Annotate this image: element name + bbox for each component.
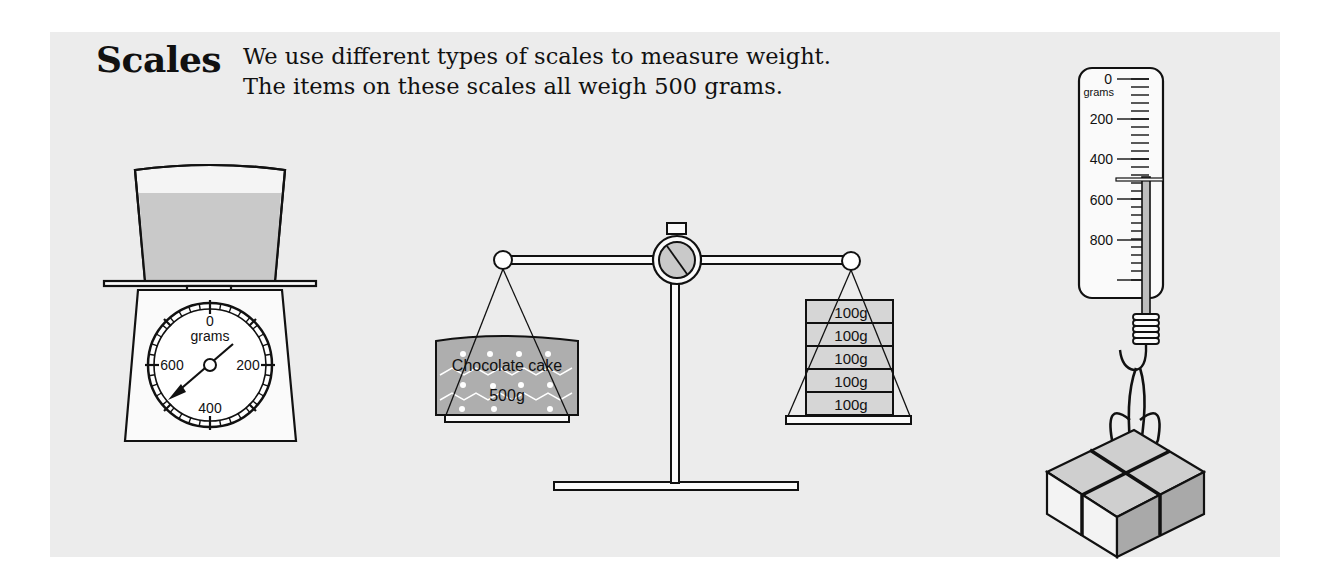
spring-coil (1133, 314, 1159, 344)
spring-unit-label: grams (1083, 86, 1114, 98)
weight-label-1: 100g (834, 304, 867, 321)
spring-label-600: 600 (1090, 192, 1114, 208)
spring-label-800: 800 (1090, 232, 1114, 248)
weight-label-4: 100g (834, 373, 867, 390)
weight-label-2: 100g (834, 327, 867, 344)
dial-label-0: 0 (206, 313, 214, 329)
reading-indicator (1116, 178, 1163, 181)
cake-weight-label: 500g (489, 387, 525, 404)
dial-label-600: 600 (160, 357, 184, 373)
weight-label-3: 100g (834, 350, 867, 367)
dial-label-400: 400 (198, 400, 222, 416)
spring-label-0: 0 (1104, 71, 1112, 87)
spring-label-400: 400 (1090, 151, 1114, 167)
dial-unit-label: grams (191, 328, 230, 344)
hook-icon (1120, 345, 1146, 370)
dial-label-200: 200 (236, 357, 260, 373)
spring-scale (1047, 68, 1204, 557)
weight-label-5: 100g (834, 396, 867, 413)
spring-label-200: 200 (1090, 111, 1114, 127)
scales-illustration: 0 grams 200 400 600 (0, 0, 1327, 587)
cake-label: Chocolate cake (452, 357, 562, 374)
